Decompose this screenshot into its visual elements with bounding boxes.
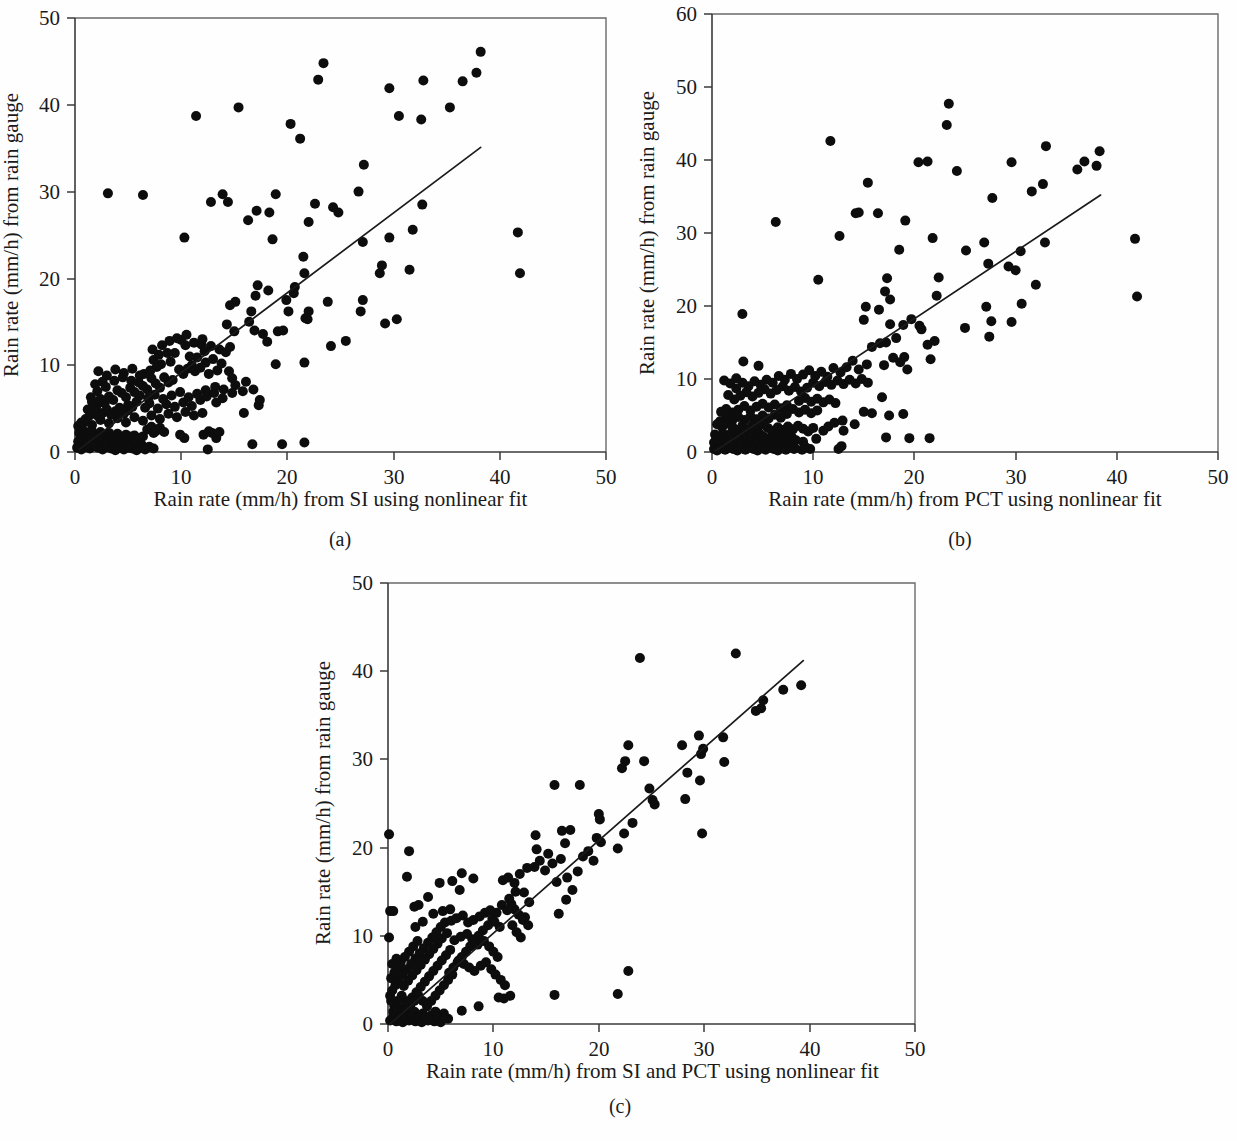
data-point <box>543 849 553 859</box>
x-axis-title: Rain rate (mm/h) from SI using nonlinear… <box>75 487 606 512</box>
x-tick-label: 50 <box>905 1037 926 1061</box>
data-point <box>304 217 314 227</box>
data-point <box>192 389 202 399</box>
data-point <box>388 906 398 916</box>
panel-a-caption: (a) <box>260 528 420 551</box>
data-point <box>247 439 257 449</box>
y-tick-label: 0 <box>687 440 698 464</box>
fit-line <box>716 195 1101 451</box>
data-point <box>1092 161 1102 171</box>
y-tick-labels: 0 10 20 30 40 50 <box>39 6 60 464</box>
data-point <box>175 430 185 440</box>
data-point <box>916 324 926 334</box>
data-point <box>219 385 229 395</box>
data-point <box>225 300 235 310</box>
data-point <box>613 843 623 853</box>
data-point <box>854 365 864 375</box>
x-ticks <box>388 1024 915 1032</box>
data-point <box>682 768 692 778</box>
data-point <box>93 366 103 376</box>
data-point <box>238 386 248 396</box>
data-point <box>163 409 173 419</box>
data-point <box>435 878 445 888</box>
data-point <box>204 369 214 379</box>
data-point <box>550 990 560 1000</box>
data-point <box>1130 234 1140 244</box>
data-point <box>738 356 748 366</box>
y-tick-label: 50 <box>676 75 697 99</box>
y-tick-label: 20 <box>352 836 373 860</box>
y-axis-title: Rain rate (mm/h) from rain gauge <box>311 661 335 945</box>
data-point <box>241 377 251 387</box>
panel-b: 0 10 20 30 40 50 60 0 10 20 30 40 50 Rai… <box>620 0 1237 500</box>
x-tick-label: 10 <box>171 465 192 489</box>
data-point <box>984 332 994 342</box>
data-point <box>410 922 420 932</box>
data-point <box>895 357 905 367</box>
data-point <box>264 207 274 217</box>
data-point <box>138 190 148 200</box>
data-point <box>565 825 575 835</box>
data-point <box>323 297 333 307</box>
data-point <box>902 365 912 375</box>
data-point <box>731 649 741 659</box>
data-point <box>839 426 849 436</box>
data-point <box>457 1006 467 1016</box>
data-point <box>812 405 822 415</box>
data-point <box>223 197 233 207</box>
x-tick-label: 0 <box>707 465 718 489</box>
data-point <box>575 780 585 790</box>
data-point <box>1027 186 1037 196</box>
data-point <box>159 427 169 437</box>
data-point <box>1011 265 1021 275</box>
data-point <box>402 872 412 882</box>
data-point <box>239 408 249 418</box>
data-point <box>155 414 165 424</box>
data-point <box>399 981 409 991</box>
data-point <box>203 444 213 454</box>
data-point <box>191 111 201 121</box>
y-tick-label: 10 <box>352 924 373 948</box>
x-tick-labels: 0 10 20 30 40 50 <box>707 465 1229 489</box>
data-point <box>172 333 182 343</box>
data-point <box>333 207 343 217</box>
data-point <box>445 904 455 914</box>
data-point <box>414 900 424 910</box>
data-point <box>146 411 156 421</box>
data-point <box>184 392 194 402</box>
data-point <box>298 252 308 262</box>
x-tick-label: 50 <box>1208 465 1229 489</box>
data-point <box>894 245 904 255</box>
data-point <box>493 952 503 962</box>
data-point <box>103 188 113 198</box>
data-point <box>547 858 557 868</box>
y-tick-label: 40 <box>39 93 60 117</box>
data-point <box>457 868 467 878</box>
data-point <box>778 685 788 695</box>
data-point <box>561 895 571 905</box>
data-point <box>234 102 244 112</box>
data-point <box>278 325 288 335</box>
data-point <box>145 365 155 375</box>
data-point <box>121 417 131 427</box>
data-point <box>881 432 891 442</box>
x-tick-label: 30 <box>384 465 405 489</box>
x-tick-label: 20 <box>904 465 925 489</box>
x-tick-label: 20 <box>277 465 298 489</box>
y-tick-label: 20 <box>676 294 697 318</box>
data-point <box>428 909 438 919</box>
data-point <box>217 358 227 368</box>
data-point <box>617 763 627 773</box>
x-tick-label: 0 <box>70 465 81 489</box>
data-point <box>92 386 102 396</box>
y-tick-label: 60 <box>676 2 697 26</box>
data-point <box>519 888 529 898</box>
data-point <box>926 354 936 364</box>
data-point <box>167 391 177 401</box>
data-point <box>404 846 414 856</box>
data-point <box>987 193 997 203</box>
panel-c: 0 10 20 30 40 50 0 10 20 30 40 50 Rain r… <box>290 560 950 1080</box>
data-point <box>882 273 892 283</box>
data-point <box>1031 280 1041 290</box>
data-point <box>796 680 806 690</box>
